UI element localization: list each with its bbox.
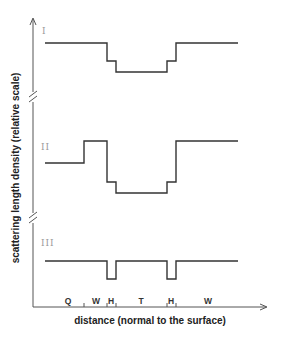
profile-curve-iii — [45, 261, 238, 279]
region-label-h: H — [108, 296, 114, 306]
y-axis-break-lower — [28, 212, 38, 223]
density-profiles — [45, 43, 238, 279]
region-label-w: W — [204, 296, 213, 306]
region-label-h: H — [168, 296, 174, 306]
profile-label-iii: III — [41, 238, 55, 248]
region-label-w: W — [92, 296, 101, 306]
profile-label-i: I — [42, 26, 47, 36]
region-labels: QWHTHW — [65, 296, 213, 306]
region-label-q: Q — [65, 296, 72, 306]
x-axis-label: distance (normal to the surface) — [74, 315, 226, 326]
region-label-t: T — [138, 296, 144, 306]
profile-curve-i — [45, 43, 238, 72]
y-axis-break-upper — [28, 91, 38, 102]
scattering-density-diagram: I II III QWHTHW distance (normal to the … — [0, 0, 282, 339]
profile-curve-ii — [45, 141, 238, 193]
y-axis-label: scattering length density (relative scal… — [10, 73, 21, 264]
y-axis — [30, 18, 36, 307]
profile-label-ii: II — [41, 142, 50, 152]
